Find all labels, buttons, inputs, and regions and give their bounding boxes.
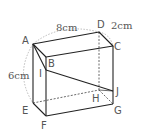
dimension-label-dc: 2cm xyxy=(111,20,133,31)
vertex-label-d: D xyxy=(97,19,105,30)
vertex-label-e: E xyxy=(22,105,28,116)
vertex-label-f: F xyxy=(41,120,47,131)
vertex-label-i: I xyxy=(39,68,42,79)
visible-edges xyxy=(33,32,113,116)
dimension-label-ae: 6cm xyxy=(8,70,30,81)
vertex-label-b: B xyxy=(48,58,55,69)
vertex-label-c: C xyxy=(114,41,121,52)
dimension-label-ad: 8cm xyxy=(56,22,78,33)
cuboid-diagram: 8cm 2cm 6cm A B C D E F G H I J xyxy=(0,0,141,140)
vertex-label-j: J xyxy=(115,86,119,97)
hidden-edge-eh xyxy=(33,90,99,103)
vertex-label-h: H xyxy=(92,93,100,104)
vertex-label-g: G xyxy=(114,105,122,116)
vertex-label-a: A xyxy=(22,35,29,46)
hidden-edge-hg xyxy=(99,90,113,104)
